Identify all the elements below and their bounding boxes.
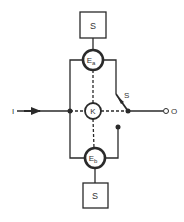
input-label: I [12,107,14,116]
coupler-k-circle: K [85,103,101,119]
element-b-circle: Eb [85,148,105,168]
source-bottom-label: S [92,191,98,201]
connector-ea-left-branch [70,60,83,111]
connector-left-to-eb [70,111,85,158]
element-a-circle: Ea [83,50,103,70]
output-label: O [171,107,177,116]
coupler-label: K [90,107,96,116]
source-top-box: S [80,12,106,38]
output-terminal-icon [164,109,169,114]
connector-contact-to-eb [105,127,118,158]
dashed-link-k-to-eb [93,119,94,148]
schematic-diagram: S S Ea I K O Eb [0,0,184,222]
source-top-label: S [90,21,96,31]
source-bottom-box: S [83,183,108,208]
connector-ea-right-branch [103,60,116,94]
switch-label: S [124,91,129,100]
